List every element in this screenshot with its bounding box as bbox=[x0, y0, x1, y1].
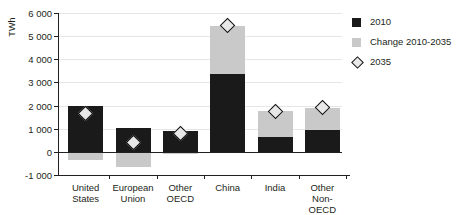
legend-item-label: 2010 bbox=[370, 17, 391, 27]
x-tick-mark bbox=[204, 175, 205, 179]
legend-swatch-icon bbox=[352, 38, 361, 47]
x-tick-label: India bbox=[251, 182, 298, 193]
x-tick-label: European Union bbox=[109, 182, 156, 204]
legend-swatch-icon bbox=[352, 18, 361, 27]
chart-legend: 2010Change 2010-20352035 bbox=[352, 12, 451, 72]
legend-item[interactable]: 2035 bbox=[352, 52, 451, 72]
x-tick-label: Other Non-OECD bbox=[299, 182, 346, 215]
bar-group bbox=[163, 13, 198, 175]
bar-segment-2010 bbox=[210, 74, 245, 152]
x-tick-label: Other OECD bbox=[157, 182, 204, 204]
bar-segment-2010 bbox=[305, 130, 340, 152]
bar-segment-change bbox=[68, 152, 103, 160]
y-tick-label: -1 000 bbox=[6, 171, 52, 181]
bar-series bbox=[58, 13, 342, 175]
bar-group bbox=[258, 13, 293, 175]
x-tick-label: United States bbox=[62, 182, 109, 204]
bar-group bbox=[210, 13, 245, 175]
x-tick-mark bbox=[299, 175, 300, 179]
legend-item-label: Change 2010-2035 bbox=[370, 37, 451, 47]
plot-area bbox=[58, 13, 342, 175]
y-axis-line bbox=[58, 13, 59, 175]
x-tick-mark bbox=[251, 175, 252, 179]
bar-group bbox=[68, 13, 103, 175]
legend-item[interactable]: Change 2010-2035 bbox=[352, 32, 451, 52]
x-tick-mark bbox=[346, 175, 347, 179]
y-tick-label: 2 000 bbox=[6, 102, 52, 112]
chart-container: TWh 6 0005 0004 0003 0002 0001 0000-1 00… bbox=[0, 0, 456, 215]
y-tick-label: 4 000 bbox=[6, 55, 52, 65]
legend-item[interactable]: 2010 bbox=[352, 12, 451, 32]
x-tick-mark bbox=[109, 175, 110, 179]
y-tick-label: 5 000 bbox=[6, 32, 52, 42]
zero-line bbox=[58, 152, 342, 153]
bar-segment-change bbox=[116, 152, 151, 167]
y-tick-label: 6 000 bbox=[6, 9, 52, 19]
x-tick-mark bbox=[157, 175, 158, 179]
y-tick-label: 3 000 bbox=[6, 78, 52, 88]
x-tick-label: China bbox=[204, 182, 251, 193]
legend-item-label: 2035 bbox=[370, 57, 391, 67]
y-tick-label: 1 000 bbox=[6, 125, 52, 135]
bar-group bbox=[305, 13, 340, 175]
bar-segment-2010 bbox=[258, 137, 293, 152]
y-tick-label: 0 bbox=[6, 148, 52, 158]
diamond-marker-icon bbox=[351, 56, 364, 69]
bar-group bbox=[116, 13, 151, 175]
